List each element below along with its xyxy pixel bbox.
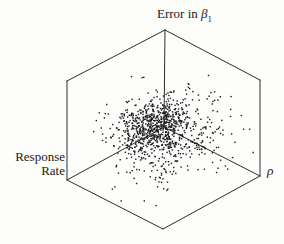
left-axis-label-line2: Rate <box>8 164 65 178</box>
scatter3d-plot <box>0 0 284 244</box>
left-axis-label-line1: Response <box>8 150 65 164</box>
scatter3d-figure: Error in β1 Response Rate ρ <box>0 0 284 244</box>
vertical-axis-label: Error in β1 <box>157 6 212 22</box>
data-points <box>93 75 254 206</box>
left-axis-label: Response Rate <box>8 150 65 177</box>
right-axis-label: ρ <box>267 163 273 179</box>
vertical-axis-label-text: Error in <box>157 6 201 21</box>
beta-subscript: 1 <box>208 14 213 24</box>
